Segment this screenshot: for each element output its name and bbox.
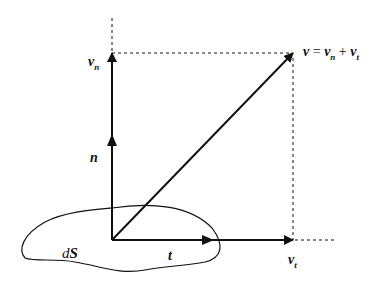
arrow-t-head-icon: [202, 235, 214, 245]
arrow-n-head-icon: [107, 134, 117, 146]
label-v-t: vt: [288, 252, 297, 270]
label-v-n: vn: [88, 54, 99, 72]
label-n: n: [90, 150, 98, 165]
label-dS: dS: [62, 245, 78, 261]
surface-element-dS: [22, 205, 220, 271]
label-v-equation: v = vn + vt: [303, 44, 359, 62]
label-t: t: [168, 248, 173, 263]
arrow-v: [112, 53, 293, 240]
vector-diagram: vn v = vn + vt n t dS vt: [0, 0, 382, 301]
